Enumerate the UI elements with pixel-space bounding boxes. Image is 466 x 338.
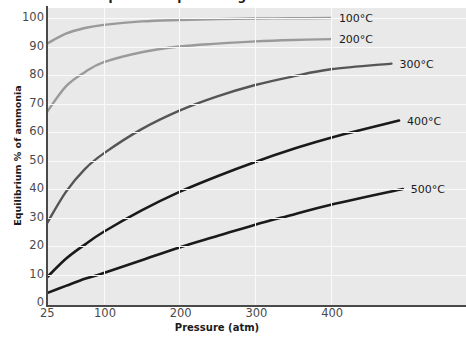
gridline-y-10	[47, 275, 466, 276]
gridline-x-200	[179, 8, 180, 305]
series-label-500c: 500°C	[411, 184, 445, 195]
gridline-y-30	[47, 218, 466, 219]
y-tick-label-0: 0	[2, 297, 44, 309]
series-line-300c	[47, 64, 391, 224]
y-tick-label-60: 60	[2, 126, 44, 138]
y-tick-label-40: 40	[2, 183, 44, 195]
series-lines	[47, 8, 466, 305]
series-label-200c: 200°C	[339, 34, 373, 45]
series-label-400c: 400°C	[407, 115, 441, 126]
plot-area	[47, 8, 466, 305]
gridline-y-80	[47, 75, 466, 76]
gridline-y-100	[47, 18, 466, 19]
gridline-y-60	[47, 132, 466, 133]
y-tick-label-10: 10	[2, 269, 44, 281]
chart-title: Equilibrium percentage of ammonia	[47, 0, 387, 3]
y-tick-label-50: 50	[2, 155, 44, 167]
y-tick-label-30: 30	[2, 212, 44, 224]
series-line-500c	[47, 189, 403, 293]
gridline-x-100	[104, 8, 105, 305]
gridline-y-90	[47, 47, 466, 48]
x-tick-label-100: 100	[94, 308, 116, 320]
y-tick-label-20: 20	[2, 240, 44, 252]
y-tick-label-70: 70	[2, 98, 44, 110]
ammonia-equilibrium-chart: Equilibrium percentage of ammonia 010203…	[0, 0, 466, 338]
y-tick-label-90: 90	[2, 41, 44, 53]
series-label-300c: 300°C	[399, 58, 433, 69]
y-tick-label-80: 80	[2, 69, 44, 81]
y-axis-title: Equilibrium % of ammonia	[12, 46, 23, 266]
series-label-100c: 100°C	[339, 13, 373, 24]
gridline-y-70	[47, 104, 466, 105]
y-tick-label-100: 100	[2, 12, 44, 24]
gridline-x-300	[255, 8, 256, 305]
series-line-400c	[47, 121, 399, 278]
x-tick-label-300: 300	[245, 308, 267, 320]
gridline-y-20	[47, 246, 466, 247]
x-axis-title: Pressure (atm)	[47, 322, 387, 333]
x-tick-label-25: 25	[40, 308, 55, 320]
x-tick-label-400: 400	[321, 308, 343, 320]
gridline-y-50	[47, 161, 466, 162]
gridline-x-400	[331, 8, 332, 305]
y-axis-line	[46, 6, 48, 307]
gridline-y-40	[47, 189, 466, 190]
x-tick-label-200: 200	[170, 308, 192, 320]
